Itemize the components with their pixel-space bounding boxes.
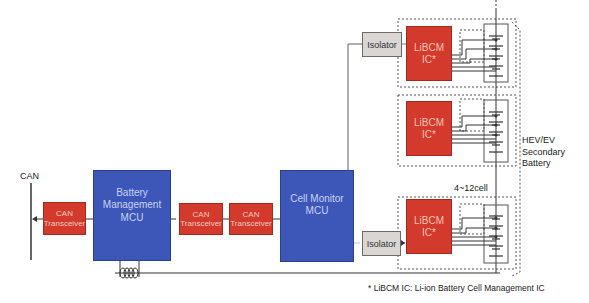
isolator-top-label: Isolator <box>367 40 397 50</box>
bm-mcu-line1: Battery <box>116 187 148 200</box>
battery-label: HEV/EV Secondary Battery <box>522 135 565 170</box>
libcm-ic-2-line2: IC* <box>422 129 436 141</box>
can-transceiver-middle-line1: CAN <box>193 210 210 219</box>
bm-mcu-line3: MCU <box>121 212 144 225</box>
isolator-top: Isolator <box>362 32 402 57</box>
libcm-ic-2-line1: LiBCM <box>414 117 444 129</box>
libcm-ic-1-line2: IC* <box>422 54 436 66</box>
battery-management-mcu: Battery Management MCU <box>93 170 171 261</box>
can-transceiver-left-line2: Transceiver <box>44 219 86 228</box>
isolator-bottom-label: Isolator <box>367 239 397 249</box>
can-transceiver-middle: CAN Transceiver <box>179 203 223 235</box>
can-transceiver-right: CAN Transceiver <box>229 203 273 235</box>
libcm-ic-3: LiBCM IC* <box>406 199 452 254</box>
cell-count-label: 4~12cell <box>454 183 488 193</box>
footnote: * LiBCM IC: Li-ion Battery Cell Manageme… <box>368 284 545 294</box>
cm-mcu-line2: MCU <box>306 205 329 218</box>
libcm-ic-3-line2: IC* <box>422 227 436 239</box>
bm-mcu-line2: Management <box>103 199 161 212</box>
libcm-ic-1-line1: LiBCM <box>414 42 444 54</box>
libcm-ic-3-line1: LiBCM <box>414 215 444 227</box>
can-transceiver-right-line2: Transceiver <box>230 219 272 228</box>
battery-label-line3: Battery <box>522 158 565 170</box>
libcm-ic-2: LiBCM IC* <box>406 101 452 156</box>
battery-label-line2: Secondary <box>522 147 565 159</box>
battery-label-line1: HEV/EV <box>522 135 565 147</box>
can-bus-label: CAN <box>20 171 39 181</box>
cell-monitor-mcu: Cell Monitor MCU <box>280 170 354 262</box>
isolator-bottom: Isolator <box>362 231 401 256</box>
can-transceiver-left-line1: CAN <box>56 209 73 218</box>
can-transceiver-middle-line2: Transceiver <box>180 219 222 228</box>
cm-mcu-line1: Cell Monitor <box>290 193 343 206</box>
can-transceiver-left: CAN Transceiver <box>43 202 86 235</box>
libcm-ic-1: LiBCM IC* <box>406 26 452 81</box>
can-transceiver-right-line1: CAN <box>243 210 260 219</box>
